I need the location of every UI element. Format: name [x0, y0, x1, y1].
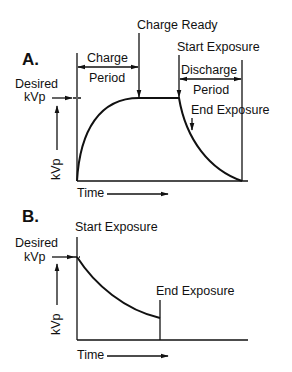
a-x-axis-label: Time: [77, 187, 104, 200]
a-charge-label: Charge: [87, 52, 128, 65]
b-desired-label: Desired: [15, 237, 58, 250]
diagram-canvas: [0, 0, 292, 372]
a-period-label: Period: [89, 72, 125, 85]
a-y-axis-label: kVp: [50, 158, 63, 180]
a-desired-kvp-label: kVp: [24, 91, 46, 104]
b-end-exposure-label: End Exposure: [156, 285, 235, 298]
b-x-axis-label: Time: [77, 349, 104, 362]
a-start-exposure-label: Start Exposure: [177, 41, 260, 54]
a-charge-ready-label: Charge Ready: [137, 19, 218, 32]
a-discharge-label: Discharge: [181, 64, 237, 77]
b-y-axis-label: kVp: [50, 313, 63, 335]
a-end-exposure-label: End Exposure: [191, 104, 270, 117]
panel-b-label: B.: [22, 210, 39, 223]
panel-a-label: A.: [22, 53, 39, 66]
b-kvp-curve: [77, 257, 160, 318]
b-start-exposure-label: Start Exposure: [75, 221, 158, 234]
b-desired-kvp-label: kVp: [24, 251, 46, 264]
a-discharge-period-label: Period: [193, 84, 229, 97]
